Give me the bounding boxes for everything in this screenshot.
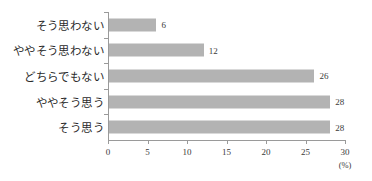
bar-row: どちらでもない 26 [0, 63, 372, 89]
bar-chart: そう思わない 6 ややそう思わない 12 どちらでもない 26 [0, 0, 372, 181]
bar-track: 26 [109, 69, 314, 82]
bar-track: 28 [109, 95, 330, 108]
x-axis-tick [306, 140, 307, 144]
x-axis-tick-label: 30 [341, 147, 350, 157]
bar-rows: そう思わない 6 ややそう思わない 12 どちらでもない 26 [0, 12, 372, 140]
x-axis-tick [345, 140, 346, 144]
x-axis-unit-label: (%) [339, 160, 352, 170]
bar-value-label: 12 [209, 45, 218, 55]
bar-value-label: 28 [335, 97, 344, 107]
x-axis-tick [227, 140, 228, 144]
bar-track: 6 [109, 18, 156, 31]
x-axis-tick [187, 140, 188, 144]
bar-row: ややそう思わない 12 [0, 38, 372, 64]
x-axis-tick-label: 15 [222, 147, 231, 157]
bar: 6 [109, 18, 156, 31]
x-axis-tick [266, 140, 267, 144]
bar: 28 [109, 95, 330, 108]
category-label: ややそう思わない [13, 42, 104, 58]
x-axis-tick [148, 140, 149, 144]
category-label: ややそう思う [36, 94, 104, 110]
bar: 12 [109, 44, 204, 57]
bar-value-label: 6 [161, 20, 166, 30]
bar-value-label: 26 [319, 71, 328, 81]
x-axis-tick-label: 10 [183, 147, 192, 157]
x-axis-tick [108, 140, 109, 144]
category-label: そう思わない [36, 17, 104, 33]
category-label: どちらでもない [24, 68, 104, 84]
bar-track: 12 [109, 44, 204, 57]
bar-track: 28 [109, 121, 330, 134]
bar-row: そう思わない 6 [0, 12, 372, 38]
bar-value-label: 28 [335, 122, 344, 132]
x-axis-tick-label: 25 [301, 147, 310, 157]
x-axis-tick-label: 0 [106, 147, 111, 157]
bar-row: ややそう思う 28 [0, 89, 372, 115]
bar: 28 [109, 121, 330, 134]
x-axis-tick-label: 20 [262, 147, 271, 157]
category-label: そう思う [58, 119, 104, 135]
bar-row: そう思う 28 [0, 114, 372, 140]
x-axis-tick-label: 5 [145, 147, 150, 157]
bar: 26 [109, 69, 314, 82]
